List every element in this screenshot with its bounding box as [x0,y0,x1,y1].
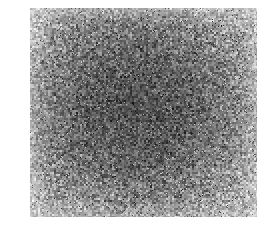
image-canvas [0,0,274,227]
micrograph-plate [30,8,257,217]
speckle-texture [30,8,257,217]
